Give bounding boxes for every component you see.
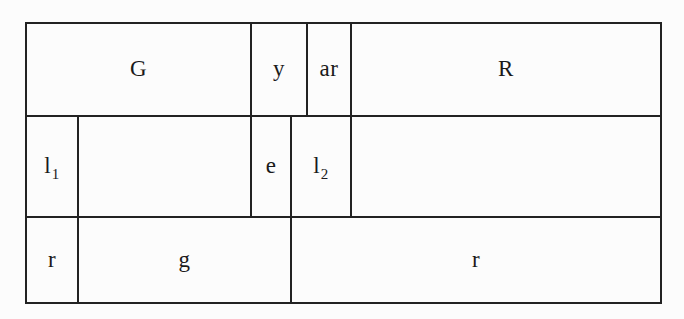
cell-g-label: g: [179, 248, 191, 273]
cell-l2: l2: [292, 117, 352, 216]
cell-l2-label: l2: [313, 154, 328, 179]
cell-r-left: r: [27, 218, 79, 302]
cell-e: e: [252, 117, 292, 216]
cell-blank-right: [352, 117, 660, 216]
cell-blank-left: [79, 117, 252, 216]
cell-e-label: e: [266, 154, 277, 179]
cell-R-label: R: [498, 57, 514, 82]
cell-l1: l1: [27, 117, 79, 216]
cell-r-right-label: r: [472, 248, 480, 273]
diagram-row-middle: l1 e l2: [27, 117, 660, 218]
cell-r-left-label: r: [48, 248, 56, 273]
cell-r-right: r: [292, 218, 660, 302]
partition-diagram: G y ar R l1 e l2 r g r: [25, 22, 662, 304]
cell-ar-label: ar: [320, 57, 339, 82]
cell-l2-base: l: [313, 153, 320, 178]
cell-ar: ar: [308, 24, 352, 115]
cell-G: G: [27, 24, 252, 115]
cell-G-label: G: [130, 57, 147, 82]
cell-l1-subscript: 1: [52, 166, 60, 182]
diagram-row-top: G y ar R: [27, 24, 660, 117]
cell-y-label: y: [273, 57, 285, 82]
cell-l1-base: l: [44, 153, 51, 178]
cell-l2-subscript: 2: [321, 166, 329, 182]
cell-R: R: [352, 24, 660, 115]
cell-g: g: [79, 218, 292, 302]
cell-l1-label: l1: [44, 154, 59, 179]
cell-y: y: [252, 24, 308, 115]
diagram-row-bottom: r g r: [27, 218, 660, 302]
